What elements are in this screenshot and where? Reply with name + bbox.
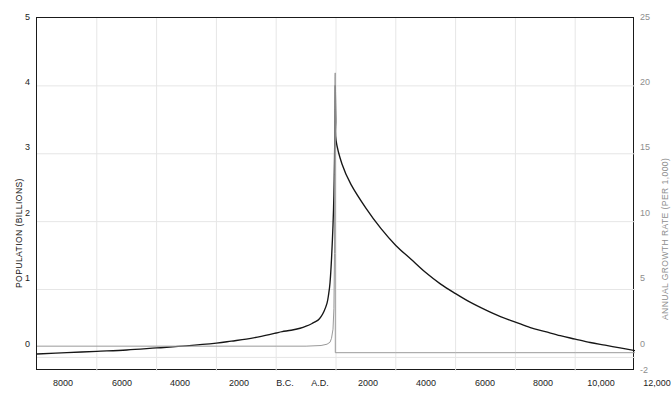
x-tick-5: A.D. [300,379,340,388]
y-tick-left-5: 0 [8,340,30,349]
y-tick-right-1: 20 [640,78,666,87]
x-tick-10: 10,000 [581,379,621,388]
y-tick-right-0: 25 [640,13,666,22]
x-tick-9: 8000 [523,379,563,388]
x-tick-8: 6000 [465,379,505,388]
y-tick-right-2: 15 [640,143,666,152]
x-tick-4: B.C. [265,379,305,388]
x-tick-6: 2000 [348,379,388,388]
x-tick-0: 8000 [43,379,83,388]
population-growth-chart: 543210 2520151050-2 8000600040002000B.C.… [0,0,671,401]
y-tick-left-2: 3 [8,143,30,152]
x-tick-2: 4000 [160,379,200,388]
y-tick-right-6: -2 [640,366,666,375]
y-axis-left-title: POPULATION (BILLIONS) [14,178,24,288]
x-tick-7: 4000 [406,379,446,388]
y-axis-right-title: ANNUAL GROWTH RATE (PER 1,000) [660,158,670,320]
x-tick-11: 12,000 [637,379,671,388]
x-tick-3: 2000 [219,379,259,388]
plot-area [36,17,634,370]
x-tick-1: 6000 [102,379,142,388]
y-tick-right-5: 0 [640,340,666,349]
y-tick-left-1: 4 [8,78,30,87]
plot-canvas [37,18,635,371]
y-tick-left-0: 5 [8,13,30,22]
